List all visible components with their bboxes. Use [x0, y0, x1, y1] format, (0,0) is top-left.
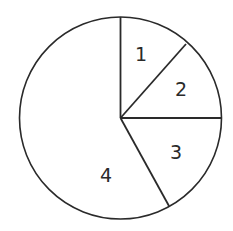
slice-label-2: 2 [175, 80, 187, 99]
pie-chart: 1 2 3 4 [0, 0, 233, 231]
slice-label-3: 3 [170, 143, 182, 162]
slice-label-4: 4 [100, 166, 112, 185]
pie-chart-graphic [0, 0, 233, 231]
slice-label-1: 1 [135, 45, 147, 64]
